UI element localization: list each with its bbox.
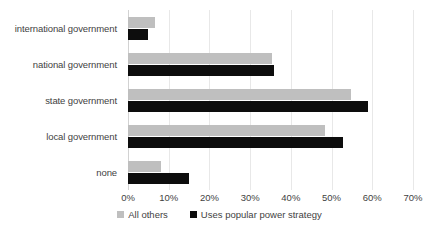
bar-uses-popular-power-strategy [128, 101, 368, 112]
value-axis-tick-label: 10% [159, 192, 178, 203]
bar-uses-popular-power-strategy [128, 29, 148, 40]
bar-group [128, 154, 413, 190]
bar-all-others [128, 125, 325, 136]
bar-rows [128, 10, 413, 190]
bar-group [128, 82, 413, 118]
bar-group [128, 10, 413, 46]
bar-all-others [128, 89, 351, 100]
category-axis-labels: international government national govern… [0, 10, 123, 190]
gridline [413, 10, 414, 190]
value-axis-tick-label: 0% [121, 192, 135, 203]
bar-uses-popular-power-strategy [128, 173, 189, 184]
category-label: national government [0, 46, 123, 82]
bar-uses-popular-power-strategy [128, 65, 274, 76]
bar-all-others [128, 161, 161, 172]
legend-swatch-icon [190, 211, 197, 218]
bar-chart: international government national govern… [0, 0, 439, 237]
value-axis-tick-label: 50% [322, 192, 341, 203]
value-axis-tick-label: 30% [241, 192, 260, 203]
legend-item-uses-popular-power-strategy: Uses popular power strategy [190, 209, 322, 220]
value-axis-tick-label: 60% [363, 192, 382, 203]
value-axis: 0%10%20%30%40%50%60%70% [128, 190, 413, 206]
category-label: international government [0, 10, 123, 46]
bar-group [128, 46, 413, 82]
legend-swatch-icon [117, 211, 124, 218]
bar-all-others [128, 53, 272, 64]
value-axis-tick-label: 70% [403, 192, 422, 203]
bar-all-others [128, 17, 155, 28]
legend-label: Uses popular power strategy [201, 209, 322, 220]
value-axis-tick-label: 40% [281, 192, 300, 203]
category-label: local government [0, 118, 123, 154]
legend: All others Uses popular power strategy [0, 209, 439, 220]
category-label: state government [0, 82, 123, 118]
bar-group [128, 118, 413, 154]
value-axis-tick-label: 20% [200, 192, 219, 203]
legend-item-all-others: All others [117, 209, 168, 220]
bar-uses-popular-power-strategy [128, 137, 343, 148]
plot-area [128, 10, 413, 190]
legend-label: All others [128, 209, 168, 220]
category-label: none [0, 154, 123, 190]
